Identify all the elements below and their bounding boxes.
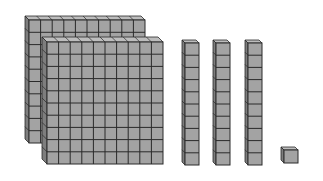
base-ten-blocks-diagram [0,0,323,181]
ten-rod-3 [245,40,262,165]
ten-rod-2 [213,40,230,165]
hundred-flat-front [42,37,163,164]
unit-cube [281,147,298,163]
ten-rod-1 [182,40,199,165]
